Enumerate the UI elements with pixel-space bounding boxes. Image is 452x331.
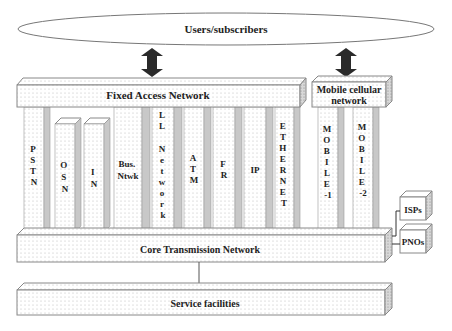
column-label-pstn: P S T N [30,144,38,187]
service-facilities-label: Service facilities [170,298,239,309]
column-in [84,118,110,232]
column-label-osn: O S N [60,160,69,194]
service-facilities-box: Service facilities [17,283,392,315]
column-bus-ntwk [114,107,150,232]
column-label-ethernet: E T H E R N E T [279,121,288,208]
isps-label: ISPs [404,205,422,215]
column-label-ip: IP [251,165,261,175]
pnos-label: PNOs [402,237,425,247]
column-fr [213,107,242,232]
users-subscribers-ellipse: Users/subscribers [18,13,434,45]
users-label: Users/subscribers [184,23,268,35]
mobile-cellular-network-box: Mobile cellular network [312,76,392,107]
column-label-fr: F R [220,159,227,180]
fixed-access-network-box: Fixed Access Network [17,78,306,107]
double-arrow-icon [141,48,163,77]
double-arrow-icon [335,48,357,77]
fixed-access-label: Fixed Access Network [106,89,210,101]
isps-cube: ISPs [400,191,432,220]
column-ll-network [152,107,182,232]
core-transmission-network-box: Core Transmission Network [17,228,392,262]
core-transmission-label: Core Transmission Network [140,244,260,255]
pnos-cube: PNOs [400,224,432,253]
column-label-atm: A T M [190,153,199,185]
mobile-cellular-label-line1: Mobile cellular [317,84,382,95]
network-architecture-diagram: Users/subscribers [0,0,452,331]
mobile-cellular-label-line2: network [331,95,367,106]
